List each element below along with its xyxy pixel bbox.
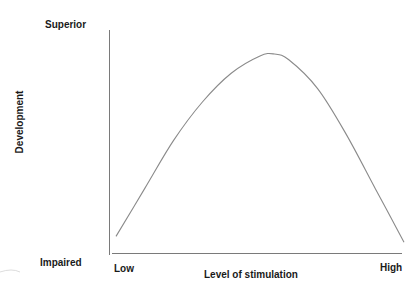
- decorative-arc: [0, 270, 20, 272]
- x-axis-left-label: Low: [114, 264, 134, 274]
- development-curve: [116, 53, 404, 242]
- x-axis-right-label: High: [380, 263, 402, 273]
- y-axis-title: Development: [15, 91, 25, 154]
- x-axis-title: Level of stimulation: [204, 270, 298, 280]
- inverted-u-chart: [0, 0, 419, 293]
- y-axis-top-label: Superior: [45, 20, 86, 30]
- y-axis-bottom-label: Impaired: [40, 258, 82, 268]
